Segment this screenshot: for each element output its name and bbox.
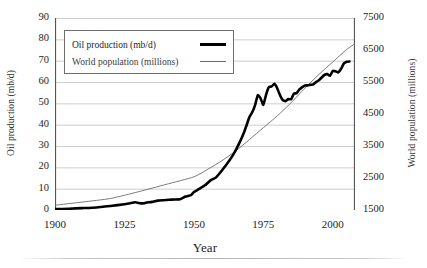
legend-swatch-oil-production	[200, 40, 226, 50]
y-tick-label-left: 50	[19, 96, 49, 107]
x-tick-label: 1975	[238, 218, 288, 230]
x-tick-label: 1950	[169, 218, 219, 230]
series-line-oil-production	[55, 62, 349, 210]
y-tick-label-left: 10	[19, 182, 49, 193]
y-tick-label-left: 80	[19, 32, 49, 43]
legend-swatch-world-population	[200, 57, 226, 67]
chart-figure: Oil production (mb/d) World population (…	[0, 0, 427, 268]
y-tick-label-right: 1500	[363, 203, 403, 214]
y-tick-label-left: 20	[19, 160, 49, 171]
x-tick-label: 2000	[308, 218, 358, 230]
y-tick-label-left: 0	[19, 203, 49, 214]
x-tick-label: 1925	[99, 218, 149, 230]
legend-label-oil-production: Oil production (mb/d)	[72, 40, 156, 50]
legend-item-world-population: World population (millions)	[72, 53, 226, 70]
y-axis-left-title: Oil production (mb/d)	[6, 53, 16, 173]
y-tick-label-left: 30	[19, 139, 49, 150]
y-axis-right-title: World population (millions)	[407, 53, 417, 173]
x-axis-title: Year	[55, 240, 355, 256]
legend-label-world-population: World population (millions)	[72, 57, 178, 67]
y-tick-label-right: 7500	[363, 11, 403, 22]
page-divider-rule	[18, 258, 410, 259]
y-tick-label-left: 60	[19, 75, 49, 86]
y-tick-label-right: 4500	[363, 107, 403, 118]
chart-legend: Oil production (mb/d) World population (…	[64, 30, 234, 74]
y-tick-label-left: 90	[19, 11, 49, 22]
y-tick-label-right: 3500	[363, 139, 403, 150]
x-tick-label: 1900	[30, 218, 80, 230]
y-tick-label-right: 5500	[363, 75, 403, 86]
y-tick-label-right: 2500	[363, 171, 403, 182]
y-tick-label-left: 70	[19, 54, 49, 65]
y-tick-label-right: 6500	[363, 43, 403, 54]
legend-item-oil-production: Oil production (mb/d)	[72, 36, 226, 53]
y-tick-label-left: 40	[19, 118, 49, 129]
